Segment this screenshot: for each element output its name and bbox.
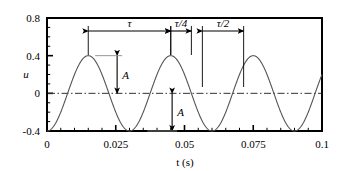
chart-figure: 0.80.40-0.4 00.0250.050.0750.1 ττ/4τ/2AA…	[0, 0, 340, 171]
y-tick-label: 0.8	[26, 12, 40, 24]
amplitude-lower-annotation-label: A	[176, 106, 184, 118]
x-tick-label: 0.05	[175, 138, 195, 150]
y-tick-label: 0	[35, 87, 41, 99]
x-tick-label: 0	[44, 138, 50, 150]
waveform-chart: 0.80.40-0.4 00.0250.050.0750.1 ττ/4τ/2AA…	[0, 0, 340, 171]
tau-over-2-annotation-label: τ/2	[217, 17, 230, 29]
y-tick-label: 0.4	[26, 50, 40, 62]
x-tick-label: 0.025	[103, 138, 128, 150]
y-tick-label: -0.4	[23, 125, 41, 137]
chart-background	[0, 0, 340, 171]
x-tick-label: 0.1	[315, 138, 329, 150]
x-axis-title: t (s)	[176, 156, 194, 169]
tau-over-4-annotation-label: τ/4	[175, 17, 188, 29]
x-tick-label: 0.075	[241, 138, 266, 150]
y-axis-title: u	[23, 68, 29, 80]
amplitude-upper-annotation-label: A	[121, 69, 129, 81]
